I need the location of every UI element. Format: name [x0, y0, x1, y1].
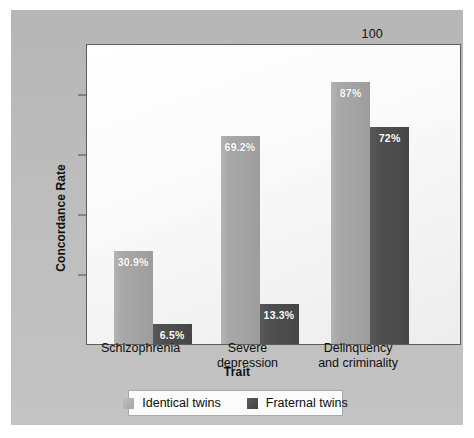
legend-label: Fraternal twins	[266, 396, 348, 410]
bar-value-label: 13.3%	[260, 309, 299, 321]
chart-panel: Concordance Rate 020406080100 30.9%6.5%6…	[11, 10, 463, 425]
y-axis-title: Concordance Rate	[54, 164, 68, 272]
bar: 13.3%	[260, 304, 299, 344]
legend-item[interactable]: Fraternal twins	[247, 396, 348, 410]
y-tick-mark	[78, 154, 86, 155]
y-tick	[11, 214, 86, 215]
plot-area: 30.9%6.5%69.2%13.3%87%72%	[86, 44, 461, 345]
y-tick	[11, 154, 86, 155]
bar: 72%	[370, 127, 409, 344]
bar-value-label: 30.9%	[114, 256, 153, 268]
bar-value-label: 72%	[370, 132, 409, 144]
bar-value-label: 6.5%	[153, 329, 192, 341]
y-tick-mark	[78, 215, 86, 216]
y-tick	[11, 335, 86, 336]
chart-legend: Identical twinsFraternal twins	[128, 390, 343, 416]
y-tick	[11, 94, 86, 95]
x-axis-title: Trait	[11, 365, 463, 379]
bar-value-label: 69.2%	[221, 141, 260, 153]
legend-item[interactable]: Identical twins	[123, 396, 221, 410]
bar-chart-figure: Concordance Rate 020406080100 30.9%6.5%6…	[0, 0, 474, 438]
legend-swatch-icon	[123, 398, 134, 409]
legend-swatch-icon	[247, 398, 258, 409]
bar: 87%	[331, 82, 370, 344]
y-tick-mark	[78, 275, 86, 276]
legend-label: Identical twins	[142, 396, 221, 410]
bar: 69.2%	[221, 136, 260, 344]
y-tick-mark	[78, 94, 86, 95]
bar-value-label: 87%	[331, 87, 370, 99]
bar: 30.9%	[114, 251, 153, 344]
y-tick	[11, 34, 86, 35]
y-tick-label: 100	[362, 27, 383, 41]
y-tick	[11, 274, 86, 275]
